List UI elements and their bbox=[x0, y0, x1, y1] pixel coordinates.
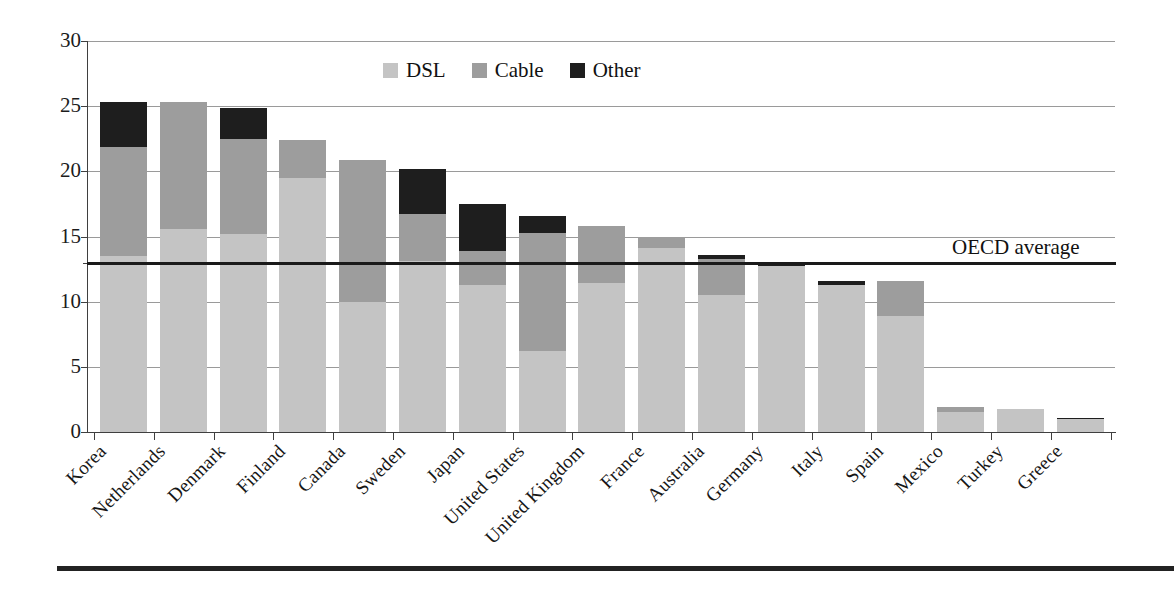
y-tick-label-25: 25 bbox=[11, 95, 81, 116]
bar-greece bbox=[1057, 418, 1104, 432]
x-label-sweden: Sweden bbox=[351, 441, 408, 498]
bar-denmark bbox=[220, 108, 267, 433]
bar-united-kingdom bbox=[578, 226, 625, 432]
bar-segment-dsl bbox=[519, 351, 566, 432]
x-label-canada: Canada bbox=[294, 441, 349, 496]
bar-segment-dsl bbox=[339, 302, 386, 432]
oecd-average-line bbox=[87, 262, 1116, 265]
bar-segment-dsl bbox=[279, 178, 326, 432]
bar-segment-cable bbox=[877, 281, 924, 316]
bar-segment-dsl bbox=[997, 409, 1044, 432]
bar-segment-cable bbox=[578, 226, 625, 283]
x-tick-4 bbox=[333, 433, 334, 440]
legend-label: Cable bbox=[495, 60, 544, 81]
y-tick-label-30: 30 bbox=[11, 30, 81, 51]
bar-finland bbox=[279, 140, 326, 432]
y-tick-15 bbox=[81, 237, 88, 238]
x-tick-5 bbox=[393, 433, 394, 440]
bar-segment-dsl bbox=[877, 316, 924, 432]
y-tick-25 bbox=[81, 106, 88, 107]
bar-segment-other bbox=[220, 108, 267, 139]
bar-united-states bbox=[519, 216, 566, 432]
bar-segment-dsl bbox=[937, 412, 984, 432]
legend-label: Other bbox=[593, 60, 641, 81]
bar-australia bbox=[698, 255, 745, 432]
bar-germany bbox=[758, 264, 805, 432]
x-tick-3 bbox=[273, 433, 274, 440]
y-tick-0 bbox=[81, 432, 88, 433]
broadband-subscribers-stacked-bar-chart: 051015202530 OECD average DSLCableOther … bbox=[0, 0, 1174, 590]
bar-france bbox=[638, 237, 685, 432]
y-tick-label-10: 10 bbox=[11, 291, 81, 312]
bar-segment-cable bbox=[100, 147, 147, 256]
bar-segment-other bbox=[100, 102, 147, 146]
bar-segment-dsl bbox=[638, 248, 685, 432]
bar-segment-dsl bbox=[578, 283, 625, 432]
x-label-denmark: Denmark bbox=[164, 441, 228, 505]
x-label-greece: Greece bbox=[1013, 441, 1065, 493]
x-tick-17 bbox=[1111, 433, 1112, 440]
bar-netherlands bbox=[160, 102, 207, 432]
bar-segment-cable bbox=[279, 140, 326, 178]
bar-segment-other bbox=[399, 169, 446, 215]
x-label-korea: Korea bbox=[62, 441, 109, 488]
bar-spain bbox=[877, 281, 924, 432]
bar-segment-dsl bbox=[100, 256, 147, 432]
y-tick-label-5: 5 bbox=[11, 356, 81, 377]
bar-segment-cable bbox=[399, 214, 446, 261]
bar-italy bbox=[818, 281, 865, 432]
x-tick-11 bbox=[752, 433, 753, 440]
x-axis-line bbox=[87, 432, 1116, 433]
bar-segment-dsl bbox=[1057, 419, 1104, 432]
bar-segment-dsl bbox=[459, 285, 506, 432]
x-tick-13 bbox=[871, 433, 872, 440]
bar-segment-dsl bbox=[758, 266, 805, 432]
bar-mexico bbox=[937, 407, 984, 432]
x-label-germany: Germany bbox=[702, 441, 766, 505]
legend-item-dsl[interactable]: DSL bbox=[383, 60, 446, 81]
bar-turkey bbox=[997, 409, 1044, 432]
bar-segment-other bbox=[459, 204, 506, 251]
x-tick-14 bbox=[931, 433, 932, 440]
bar-korea bbox=[100, 102, 147, 432]
x-label-italy: Italy bbox=[788, 441, 827, 480]
x-tick-6 bbox=[453, 433, 454, 440]
bar-segment-cable bbox=[160, 102, 207, 228]
bar-segment-cable bbox=[339, 160, 386, 302]
x-tick-8 bbox=[572, 433, 573, 440]
x-tick-0 bbox=[94, 433, 95, 440]
bar-sweden bbox=[399, 169, 446, 432]
x-label-japan: Japan bbox=[423, 441, 468, 486]
x-label-turkey: Turkey bbox=[953, 441, 1006, 494]
x-label-france: France bbox=[596, 441, 647, 492]
oecd-average-label: OECD average bbox=[952, 237, 1080, 258]
x-tick-7 bbox=[513, 433, 514, 440]
bar-segment-cable bbox=[459, 251, 506, 285]
bottom-rule bbox=[57, 566, 1174, 571]
bar-segment-cable bbox=[638, 237, 685, 249]
chart-legend: DSLCableOther bbox=[383, 60, 641, 81]
y-tick-label-0: 0 bbox=[11, 421, 81, 442]
bar-segment-dsl bbox=[399, 261, 446, 432]
bar-segment-cable bbox=[519, 233, 566, 352]
x-tick-10 bbox=[692, 433, 693, 440]
x-tick-15 bbox=[991, 433, 992, 440]
y-tick-20 bbox=[81, 171, 88, 172]
x-label-australia: Australia bbox=[643, 441, 707, 505]
bar-segment-other bbox=[519, 216, 566, 233]
y-tick-5 bbox=[81, 367, 88, 368]
y-tick-label-15: 15 bbox=[11, 226, 81, 247]
bar-segment-dsl bbox=[818, 285, 865, 432]
bar-segment-cable bbox=[220, 139, 267, 234]
x-tick-1 bbox=[154, 433, 155, 440]
y-tick-label-20: 20 bbox=[11, 160, 81, 181]
legend-item-cable[interactable]: Cable bbox=[472, 60, 544, 81]
legend-item-other[interactable]: Other bbox=[570, 60, 641, 81]
y-tick-10 bbox=[81, 302, 88, 303]
bar-canada bbox=[339, 160, 386, 432]
legend-swatch-other-icon bbox=[570, 63, 585, 78]
gridline-30 bbox=[88, 41, 1115, 42]
y-tick-30 bbox=[81, 41, 88, 42]
bar-segment-dsl bbox=[698, 295, 745, 432]
bar-segment-dsl bbox=[160, 229, 207, 432]
